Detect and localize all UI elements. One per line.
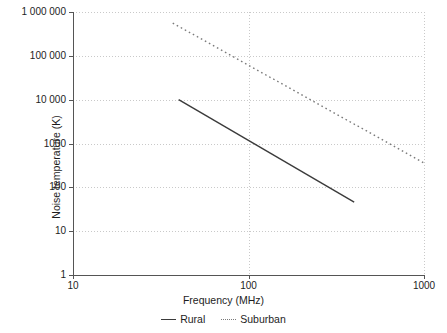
x-tick-label: 1000 <box>413 281 435 291</box>
tick-marks <box>69 13 425 280</box>
y-tick-label: 10 <box>55 226 66 236</box>
axis-lines <box>73 12 424 276</box>
series-suburban <box>173 23 424 163</box>
x-axis-title: Frequency (MHz) <box>0 294 447 306</box>
series-rural <box>179 100 355 202</box>
legend-line-solid-icon <box>161 319 176 320</box>
legend-item-suburban: Suburban <box>221 313 286 325</box>
y-axis-title: Noise temperature (K) <box>50 115 62 218</box>
legend-item-rural: Rural <box>161 313 205 325</box>
y-tick-label: 1 000 000 <box>22 7 67 17</box>
series-lines <box>173 23 424 202</box>
legend-label-suburban: Suburban <box>240 313 286 325</box>
y-tick-label: 1 <box>60 270 66 280</box>
chart-legend: Rural Suburban <box>0 313 447 325</box>
x-tick-label: 100 <box>240 281 257 291</box>
legend-line-dotted-icon <box>221 319 236 320</box>
x-tick-label: 10 <box>67 281 78 291</box>
grid-lines <box>73 12 425 275</box>
noise-temperature-chart: 110100100010 000100 0001 000 00010100100… <box>0 0 447 333</box>
y-tick-label: 10 000 <box>35 95 66 105</box>
legend-label-rural: Rural <box>180 313 205 325</box>
y-tick-label: 100 000 <box>30 51 66 61</box>
